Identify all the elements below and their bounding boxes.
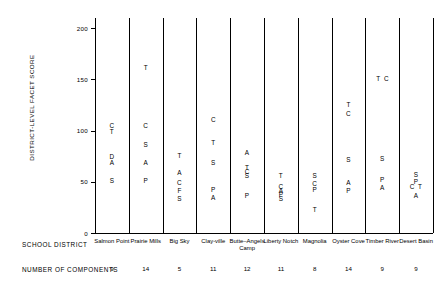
facet-code-point: S <box>105 178 119 184</box>
facet-code-point: P <box>139 178 153 184</box>
facet-code-point: P <box>342 188 356 194</box>
facet-code-point: T <box>413 184 427 190</box>
facet-code-point: C <box>379 76 393 82</box>
facet-code-point: C <box>206 117 220 123</box>
column-separator-line <box>129 18 130 233</box>
facet-code-point: S <box>173 196 187 202</box>
facet-code-point: A <box>342 180 356 186</box>
facet-code-point: S <box>342 157 356 163</box>
column-separator-line <box>298 18 299 233</box>
y-tick-mark <box>91 233 96 234</box>
column-separator-line <box>264 18 265 233</box>
facet-code-point: A <box>240 150 254 156</box>
y-tick-mark <box>91 182 96 183</box>
facet-code-point: S <box>308 173 322 179</box>
facet-code-point: C <box>139 123 153 129</box>
facet-code-point: P <box>308 187 322 193</box>
y-tick-label: 100 <box>64 127 88 134</box>
facet-code-point: T <box>308 207 322 213</box>
facet-code-point: S <box>206 160 220 166</box>
facet-code-point: A <box>375 185 389 191</box>
y-tick-label: 150 <box>64 76 88 83</box>
column-separator-line <box>332 18 333 233</box>
facet-code-point: A <box>206 195 220 201</box>
facet-code-point: T <box>139 65 153 71</box>
y-axis-title: DISTRICT-LEVEL FACET SCORE <box>28 33 35 183</box>
y-axis-line <box>95 18 96 233</box>
y-tick-mark <box>91 28 96 29</box>
facet-code-point: A <box>173 170 187 176</box>
column-separator-line <box>365 18 366 233</box>
facet-code-point: P <box>375 177 389 183</box>
facet-code-point: T <box>274 173 288 179</box>
y-tick-label: 50 <box>64 178 88 185</box>
x-axis-baseline <box>95 233 433 234</box>
facet-code-point: S <box>139 142 153 148</box>
facet-code-point: P <box>206 187 220 193</box>
column-separator-line <box>163 18 164 233</box>
facet-code-point: T <box>173 153 187 159</box>
y-tick-label: 0 <box>64 230 88 237</box>
y-tick-label: 200 <box>64 25 88 32</box>
facet-code-point: T <box>105 129 119 135</box>
y-tick-mark <box>91 131 96 132</box>
facet-code-point: S <box>375 156 389 162</box>
facet-code-point: T <box>342 102 356 108</box>
facet-code-point: A <box>409 193 423 199</box>
facet-code-point: T <box>206 140 220 146</box>
facet-code-point: S <box>274 196 288 202</box>
y-tick-mark <box>91 79 96 80</box>
facet-code-point: P <box>240 193 254 199</box>
column-separator-line <box>433 18 434 233</box>
column-separator-line <box>230 18 231 233</box>
facet-code-point: A <box>139 160 153 166</box>
facet-code-point: C <box>173 180 187 186</box>
column-separator-line <box>196 18 197 233</box>
facet-code-point: F <box>173 188 187 194</box>
category-label: Desert Basin <box>395 238 436 245</box>
column-separator-line <box>399 18 400 233</box>
school-district-row-label: SCHOOL DISTRICT <box>22 241 88 248</box>
facet-code-point: S <box>240 173 254 179</box>
component-count-value: 9 <box>395 265 436 272</box>
facet-score-chart: DISTRICT-LEVEL FACET SCORE 050100150200 … <box>0 0 436 285</box>
facet-code-point: C <box>342 111 356 117</box>
facet-code-point: A <box>105 160 119 166</box>
